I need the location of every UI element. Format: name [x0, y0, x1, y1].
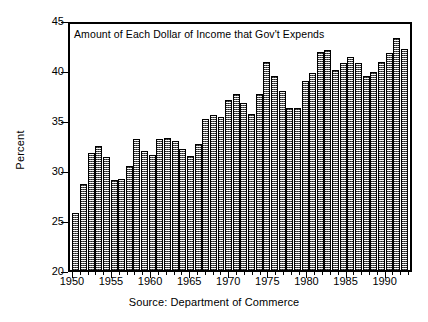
bar: [164, 138, 171, 270]
y-axis-label: Percent: [14, 110, 26, 190]
bar: [401, 49, 408, 270]
y-tick-mark: [61, 22, 68, 23]
chart-title: Amount of Each Dollar of Income that Gov…: [74, 28, 324, 40]
bar: [332, 70, 339, 270]
bar: [95, 146, 102, 270]
x-tick-label: 1955: [91, 276, 131, 287]
bar: [80, 184, 87, 270]
x-tick-minor: [244, 272, 245, 275]
x-tick-label: 1965: [169, 276, 209, 287]
bar: [118, 179, 125, 270]
bar: [88, 153, 95, 270]
x-tick-label: 1960: [130, 276, 170, 287]
bar: [324, 50, 331, 270]
bar: [187, 156, 194, 270]
x-tick-minor: [88, 272, 89, 275]
bar: [210, 115, 217, 270]
x-tick-label: 1990: [365, 276, 405, 287]
bar: [195, 144, 202, 270]
x-tick-minor: [134, 272, 135, 275]
x-tick-minor: [252, 272, 253, 275]
bar: [340, 63, 347, 270]
x-tick-label: 1980: [286, 276, 326, 287]
x-tick-minor: [408, 272, 409, 275]
x-tick-minor: [369, 272, 370, 275]
x-tick-minor: [166, 272, 167, 275]
x-tick-minor: [95, 272, 96, 275]
bar: [233, 94, 240, 270]
bar: [256, 94, 263, 270]
bar: [363, 76, 370, 270]
bar: [240, 103, 247, 270]
x-tick-label: 1950: [52, 276, 92, 287]
x-tick-minor: [330, 272, 331, 275]
bar: [347, 57, 354, 270]
x-tick-minor: [174, 272, 175, 275]
bar: [141, 151, 148, 270]
y-tick-mark: [61, 122, 68, 123]
x-tick-label: 1970: [208, 276, 248, 287]
bar: [370, 72, 377, 270]
bar: [317, 52, 324, 270]
x-tick-minor: [205, 272, 206, 275]
bar: [309, 73, 316, 270]
source-caption: Source: Department of Commerce: [0, 296, 428, 308]
chart-figure: Percent Amount of Each Dollar of Income …: [0, 0, 428, 322]
bar-series: [70, 24, 410, 270]
bar: [302, 81, 309, 270]
bar: [218, 117, 225, 270]
x-tick-minor: [322, 272, 323, 275]
x-tick-minor: [213, 272, 214, 275]
bar: [225, 100, 232, 270]
y-tick-mark: [61, 172, 68, 173]
bar: [172, 141, 179, 270]
bar: [133, 139, 140, 270]
y-tick-mark: [61, 222, 68, 223]
x-tick-minor: [127, 272, 128, 275]
x-tick-minor: [400, 272, 401, 275]
bar: [386, 53, 393, 270]
bar: [156, 139, 163, 270]
bar: [179, 149, 186, 270]
bar: [279, 91, 286, 270]
x-tick-minor: [283, 272, 284, 275]
x-tick-label: 1985: [326, 276, 366, 287]
bar: [393, 38, 400, 270]
y-tick-mark: [61, 72, 68, 73]
x-tick-minor: [291, 272, 292, 275]
bar: [111, 180, 118, 270]
plot-area: [68, 22, 412, 272]
x-tick-label: 1975: [247, 276, 287, 287]
bar: [149, 155, 156, 270]
bar: [72, 213, 79, 270]
bar: [126, 166, 133, 270]
bar: [271, 76, 278, 270]
bar: [378, 62, 385, 270]
bar: [248, 114, 255, 270]
bar: [263, 62, 270, 270]
bar: [202, 119, 209, 270]
bar: [355, 63, 362, 270]
bar: [294, 108, 301, 270]
bar: [286, 108, 293, 270]
x-tick-minor: [361, 272, 362, 275]
bar: [103, 157, 110, 270]
y-tick-mark: [61, 272, 68, 273]
